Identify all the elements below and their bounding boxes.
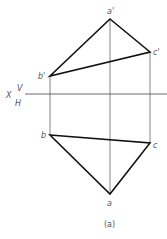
figure-caption: (a) [104,220,115,229]
label-b-prime: b' [38,72,45,81]
triangle-v-projection [50,19,150,76]
axis-v-label: V [17,84,23,93]
label-c: c [153,141,158,150]
axis-h-label: H [15,99,21,108]
axis-x-label: X [5,91,12,100]
label-a-prime: a' [107,7,114,16]
triangle-h-projection [50,135,150,194]
label-a: a [107,199,112,208]
label-c-prime: c' [153,48,160,57]
projection-diagram: a' b' c' X V H b c a (a) [0,0,167,239]
label-b: b [41,131,46,140]
